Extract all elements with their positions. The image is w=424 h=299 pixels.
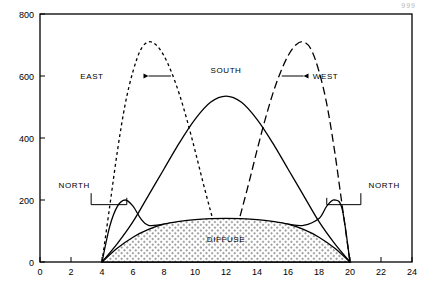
- y-tick-label: 0: [29, 258, 34, 268]
- x-tick-label: 4: [99, 267, 104, 277]
- annotation-west: WEST: [313, 72, 339, 81]
- x-tick-label: 24: [407, 267, 417, 277]
- annotation-north: NORTH: [59, 181, 90, 190]
- x-tick-label: 12: [221, 267, 231, 277]
- y-tick-label: 400: [19, 134, 34, 144]
- leader-line: [91, 193, 127, 204]
- solar-irradiance-chart: 0246810121416182022240200400600800EASTSO…: [0, 0, 424, 299]
- x-tick-label: 0: [37, 267, 42, 277]
- x-tick-label: 14: [252, 267, 262, 277]
- x-tick-label: 6: [130, 267, 135, 277]
- x-tick-label: 2: [68, 267, 73, 277]
- leader-line: [327, 193, 361, 204]
- leader-arrow: [144, 74, 149, 79]
- annotation-east: EAST: [80, 72, 103, 81]
- x-tick-label: 20: [345, 267, 355, 277]
- x-tick-label: 22: [376, 267, 386, 277]
- leader-arrow: [304, 74, 309, 79]
- y-tick-label: 200: [19, 196, 34, 206]
- x-tick-label: 18: [314, 267, 324, 277]
- y-tick-label: 600: [19, 72, 34, 82]
- y-tick-label: 800: [19, 10, 34, 20]
- x-tick-label: 16: [283, 267, 293, 277]
- x-tick-label: 8: [161, 267, 166, 277]
- chart-figure: 999 0246810121416182022240200400600800EA…: [0, 0, 424, 299]
- annotation-diffuse: DIFFUSE: [207, 235, 245, 244]
- x-tick-label: 10: [190, 267, 200, 277]
- annotation-north: NORTH: [369, 181, 400, 190]
- annotation-south: SOUTH: [211, 66, 242, 75]
